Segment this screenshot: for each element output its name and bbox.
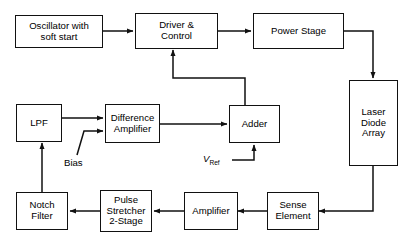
block-driver-control[interactable]: Driver & Control bbox=[135, 13, 218, 49]
block-lpf[interactable]: LPF bbox=[16, 104, 62, 142]
block-diagram-canvas: Oscillator with soft start Driver & Cont… bbox=[0, 0, 415, 249]
block-oscillator-line2: soft start bbox=[41, 31, 78, 42]
block-sense-element-line2: Element bbox=[275, 210, 310, 221]
block-pulse-stretcher[interactable]: Pulse Stretcher 2-Stage bbox=[100, 190, 152, 232]
block-sense-element-line1: Sense bbox=[279, 199, 306, 210]
block-power-stage[interactable]: Power Stage bbox=[253, 13, 344, 49]
wire-adder-to-driver bbox=[173, 50, 245, 105]
block-adder[interactable]: Adder bbox=[229, 105, 280, 143]
block-sense-element[interactable]: Sense Element bbox=[267, 192, 319, 230]
block-oscillator[interactable]: Oscillator with soft start bbox=[15, 15, 103, 48]
block-amplifier[interactable]: Amplifier bbox=[184, 192, 238, 230]
block-laser-diode-array[interactable]: Laser Diode Array bbox=[349, 80, 398, 166]
wire-laser-diode-to-sense-element bbox=[319, 166, 373, 211]
block-oscillator-line1: Oscillator with bbox=[29, 20, 89, 31]
block-difference-amplifier-line2: Amplifier bbox=[114, 123, 151, 134]
block-driver-control-line2: Control bbox=[161, 30, 192, 41]
block-difference-amplifier-line1: Difference bbox=[111, 112, 155, 123]
block-pulse-stretcher-line2: Stretcher bbox=[107, 205, 146, 216]
block-lpf-label: LPF bbox=[30, 118, 48, 129]
block-adder-label: Adder bbox=[242, 119, 268, 130]
wire-vref-to-adder bbox=[232, 145, 254, 160]
block-notch-filter[interactable]: Notch Filter bbox=[16, 192, 68, 230]
block-notch-filter-line2: Filter bbox=[31, 210, 52, 221]
block-laser-diode-array-line3: Array bbox=[362, 127, 385, 138]
block-pulse-stretcher-line1: Pulse bbox=[114, 194, 138, 205]
block-notch-filter-line1: Notch bbox=[29, 199, 54, 210]
block-amplifier-label: Amplifier bbox=[192, 206, 229, 217]
signal-label-vref: VRef bbox=[203, 153, 220, 166]
block-laser-diode-array-line1: Laser bbox=[361, 106, 385, 117]
signal-label-bias: Bias bbox=[64, 157, 83, 168]
wire-power-stage-to-laser-diode bbox=[344, 31, 373, 78]
wire-bias-to-difference-amplifier bbox=[77, 131, 103, 155]
block-difference-amplifier[interactable]: Difference Amplifier bbox=[105, 104, 160, 143]
block-driver-control-line1: Driver & bbox=[159, 19, 194, 30]
block-pulse-stretcher-line3: 2-Stage bbox=[109, 215, 143, 226]
block-laser-diode-array-line2: Diode bbox=[361, 117, 386, 128]
vref-subscript: Ref bbox=[209, 159, 219, 166]
block-power-stage-label: Power Stage bbox=[271, 26, 326, 37]
